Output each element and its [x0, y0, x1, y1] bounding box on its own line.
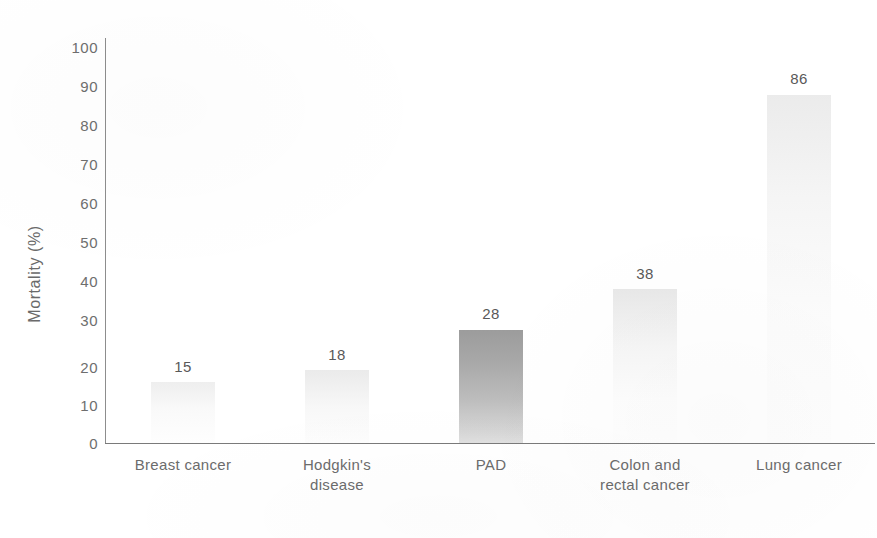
x-label-line-1: Breast cancer: [106, 455, 260, 475]
x-label-lung-cancer: Lung cancer: [722, 455, 876, 475]
y-tick-label-100: 100: [52, 40, 98, 55]
y-tick-label-90: 90: [52, 79, 98, 94]
bar-value-colon-and-rectal-cancer: 38: [636, 266, 654, 281]
y-tick-label-0: 0: [52, 436, 98, 451]
y-tick-label-20: 20: [52, 360, 98, 375]
x-label-line-2: rectal cancer: [568, 475, 722, 495]
bar-lung-cancer[interactable]: [767, 95, 831, 443]
bar-value-breast-cancer: 15: [174, 359, 192, 374]
bar-pad[interactable]: [459, 330, 523, 443]
bar-group-lung-cancer: 86: [722, 38, 876, 443]
x-label-line-2: disease: [260, 475, 414, 495]
y-axis-line: [105, 38, 106, 444]
bar-group-colon-and-rectal-cancer: 38: [568, 38, 722, 443]
y-tick-label-50: 50: [52, 235, 98, 250]
plot-area: 15 18 28 38 86: [106, 38, 875, 443]
y-tick-label-40: 40: [52, 274, 98, 289]
bar-group-hodgkins-disease: 18: [260, 38, 414, 443]
x-label-pad: PAD: [414, 455, 568, 475]
x-label-line-1: Lung cancer: [722, 455, 876, 475]
x-label-hodgkins-disease: Hodgkin's disease: [260, 455, 414, 495]
x-label-line-1: Colon and: [568, 455, 722, 475]
x-axis-category-labels: Breast cancer Hodgkin's disease PAD Colo…: [106, 455, 875, 525]
bar-colon-and-rectal-cancer[interactable]: [613, 289, 677, 443]
y-tick-label-70: 70: [52, 157, 98, 172]
bar-value-pad: 28: [482, 306, 500, 321]
bar-group-pad: 28: [414, 38, 568, 443]
y-tick-label-10: 10: [52, 398, 98, 413]
bar-value-hodgkins-disease: 18: [328, 347, 346, 362]
x-label-line-1: PAD: [414, 455, 568, 475]
y-axis-tick-labels: 100 90 80 70 60 50 40 30 20 10 0: [40, 0, 98, 538]
x-label-line-1: Hodgkin's: [260, 455, 414, 475]
bar-breast-cancer[interactable]: [151, 382, 215, 443]
bar-value-lung-cancer: 86: [790, 71, 808, 86]
bar-hodgkins-disease[interactable]: [305, 370, 369, 443]
bar-chart: Mortality (%) 100 90 80 70 60 50 40 30 2…: [0, 0, 877, 538]
y-tick-label-80: 80: [52, 118, 98, 133]
y-tick-label-30: 30: [52, 313, 98, 328]
x-label-breast-cancer: Breast cancer: [106, 455, 260, 475]
y-tick-label-60: 60: [52, 196, 98, 211]
bar-group-breast-cancer: 15: [106, 38, 260, 443]
x-label-colon-and-rectal-cancer: Colon and rectal cancer: [568, 455, 722, 495]
x-axis-line: [105, 443, 875, 444]
